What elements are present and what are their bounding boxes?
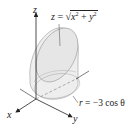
surface-equation: z = √x2 + y2: [51, 10, 98, 22]
cylinder-equation: r = −3 cos θ: [79, 99, 125, 109]
y-axis: [36, 99, 72, 117]
cylinder-leader: [73, 96, 78, 103]
y-axis-label: y: [73, 114, 77, 124]
z-axis-label: z: [33, 5, 37, 15]
x-axis-label: x: [7, 110, 11, 120]
x-axis: [16, 99, 36, 112]
